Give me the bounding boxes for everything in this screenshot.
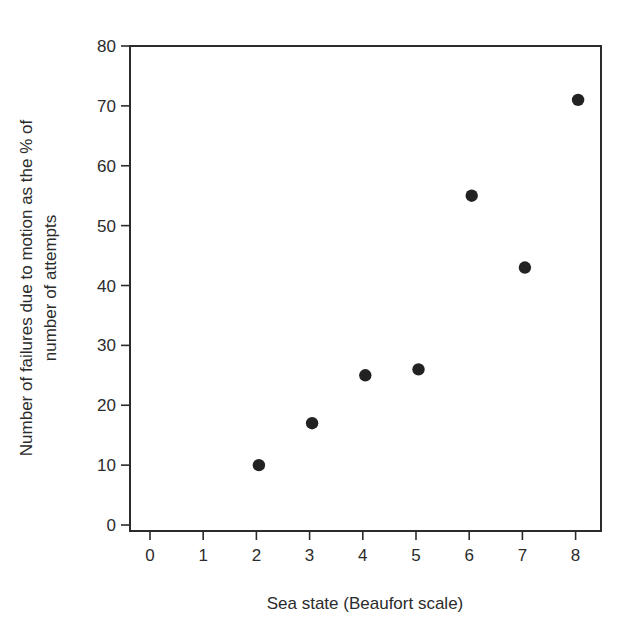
data-point-marker — [253, 459, 265, 471]
y-axis-label: Number of failures due to motion as the … — [17, 120, 60, 457]
x-tick-label: 6 — [464, 546, 473, 565]
y-tick-label: 40 — [97, 277, 116, 296]
x-axis-label: Sea state (Beaufort scale) — [267, 594, 464, 613]
x-axis-ticks: 012345678 — [145, 531, 580, 565]
data-point-marker — [519, 261, 531, 273]
y-axis-label-line: number of attempts — [41, 215, 60, 361]
plot-frame — [130, 46, 601, 531]
y-axis-label-line: Number of failures due to motion as the … — [17, 120, 36, 457]
y-tick-label: 50 — [97, 217, 116, 236]
x-tick-label: 4 — [358, 546, 367, 565]
scatter-chart: 012345678 01020304050607080 Sea state (B… — [0, 0, 631, 642]
x-tick-label: 1 — [198, 546, 207, 565]
data-points — [253, 94, 585, 472]
x-tick-label: 3 — [305, 546, 314, 565]
data-point-marker — [359, 369, 371, 381]
y-tick-label: 60 — [97, 157, 116, 176]
data-point-marker — [412, 363, 424, 375]
x-tick-label: 7 — [518, 546, 527, 565]
y-tick-label: 30 — [97, 336, 116, 355]
data-point-marker — [572, 94, 584, 106]
y-tick-label: 0 — [107, 516, 116, 535]
x-tick-label: 8 — [571, 546, 580, 565]
data-point-marker — [466, 189, 478, 201]
x-tick-label: 5 — [411, 546, 420, 565]
y-tick-label: 80 — [97, 37, 116, 56]
y-tick-label: 70 — [97, 97, 116, 116]
x-tick-label: 0 — [145, 546, 154, 565]
y-tick-label: 10 — [97, 456, 116, 475]
data-point-marker — [306, 417, 318, 429]
x-tick-label: 2 — [252, 546, 261, 565]
y-axis-ticks: 01020304050607080 — [97, 37, 130, 535]
plot-border — [130, 46, 601, 531]
y-tick-label: 20 — [97, 396, 116, 415]
